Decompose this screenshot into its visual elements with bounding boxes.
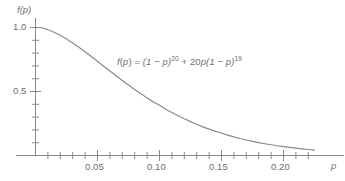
plot-area [0, 0, 345, 181]
formula-term2-exponent: 19 [235, 55, 243, 62]
formula-term2-base: (1 − p) [206, 56, 234, 67]
formula-term2-coefficient: 20 [190, 56, 201, 67]
x-tick-label-0.10: 0.10 [147, 162, 166, 172]
data-curve [36, 28, 315, 151]
formula-term1-exponent: 20 [171, 55, 179, 62]
formula-equals: = [132, 56, 143, 67]
x-tick-label-0.20: 0.20 [271, 162, 290, 172]
x-tick-label-0.15: 0.15 [209, 162, 228, 172]
formula-plus: + [179, 56, 190, 67]
chart-figure: f(p) p 1.0 0.5 0.05 0.10 0.15 0.20 f(p) … [0, 0, 345, 181]
y-axis-label: f(p) [17, 5, 31, 15]
x-axis-label: p [331, 161, 336, 171]
formula-term1-base: (1 − p) [143, 56, 171, 67]
x-tick-label-0.05: 0.05 [85, 162, 104, 172]
y-tick-label-1.0: 1.0 [13, 22, 27, 32]
y-tick-label-0.5: 0.5 [13, 86, 27, 96]
curve-formula-annotation: f(p) = (1 − p)20 + 20p(1 − p)19 [117, 56, 242, 67]
